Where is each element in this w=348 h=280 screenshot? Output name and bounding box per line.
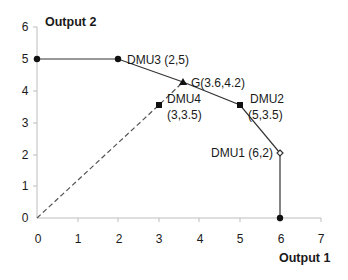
- dmu2-coords-label: (5,3.5): [248, 108, 283, 122]
- point-0-5-marker: [34, 56, 40, 62]
- y-tick: 0: [22, 211, 29, 225]
- dmu3-marker: [115, 56, 121, 62]
- x-tick: 5: [237, 232, 244, 246]
- y-axis-title: Output 2: [45, 15, 96, 29]
- dmu2-square-marker: [237, 102, 243, 108]
- x-tick: 0: [35, 232, 42, 246]
- dmu4-name-label: DMU4: [167, 92, 201, 106]
- dmu3-label: DMU3 (2,5): [127, 53, 189, 67]
- dmu4-coords-label: (3,3.5): [167, 108, 202, 122]
- annotations: DMU3 (2,5) G(3.6,4.2) DMU4 (3,3.5) DMU2 …: [127, 53, 284, 160]
- y-tick: 1: [22, 179, 29, 193]
- dea-frontier-chart: 0 1 2 3 4 5 6 0 1 2 3 4 5 6 7 Output 2 O…: [0, 0, 348, 280]
- x-tick: 7: [318, 232, 325, 246]
- y-tick: 2: [22, 148, 29, 162]
- x-axis-title: Output 1: [279, 251, 330, 265]
- x-tick: 1: [75, 232, 82, 246]
- point-6-0-marker: [277, 215, 283, 221]
- data-markers: [34, 56, 283, 221]
- y-tick: 5: [22, 52, 29, 66]
- x-tick: 2: [116, 232, 123, 246]
- g-label: G(3.6,4.2): [191, 76, 245, 90]
- y-tick: 6: [22, 20, 29, 34]
- x-tick: 3: [156, 232, 163, 246]
- y-tick-labels: 0 1 2 3 4 5 6: [22, 20, 29, 225]
- y-tick: 4: [22, 84, 29, 98]
- y-tick: 3: [22, 116, 29, 130]
- dmu2-name-label: DMU2: [250, 92, 284, 106]
- x-tick: 4: [197, 232, 204, 246]
- x-tick-labels: 0 1 2 3 4 5 6 7: [35, 232, 325, 246]
- dmu4-square-marker: [156, 102, 162, 108]
- dmu1-label: DMU1 (6,2): [211, 146, 273, 160]
- x-tick: 6: [278, 232, 285, 246]
